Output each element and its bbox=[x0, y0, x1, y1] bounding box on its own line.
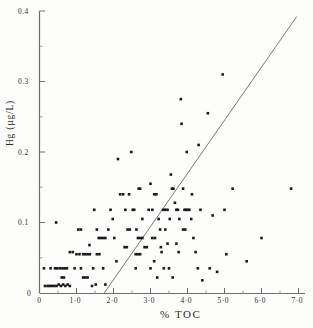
data-point bbox=[207, 112, 210, 115]
x-tick-label: 7·0 bbox=[292, 296, 303, 305]
data-point bbox=[177, 251, 180, 254]
axes bbox=[40, 11, 306, 294]
data-point bbox=[49, 285, 52, 288]
data-point bbox=[137, 237, 140, 240]
data-point bbox=[88, 244, 91, 247]
data-point bbox=[53, 285, 56, 288]
data-point bbox=[100, 237, 103, 240]
data-point bbox=[164, 209, 167, 212]
data-point bbox=[149, 182, 152, 185]
data-point bbox=[84, 276, 87, 279]
data-point bbox=[139, 237, 142, 240]
data-point bbox=[137, 253, 140, 256]
data-point bbox=[63, 267, 66, 270]
data-point bbox=[54, 267, 57, 270]
chart-figure: 01·02·03·04·05·06·07·0 00.10.20.30.4 % T… bbox=[0, 0, 313, 328]
data-point bbox=[119, 193, 122, 196]
data-point bbox=[154, 237, 157, 240]
x-tick-label: 0 bbox=[37, 296, 41, 305]
data-point bbox=[80, 228, 83, 231]
data-point bbox=[143, 246, 146, 249]
data-point bbox=[55, 285, 58, 288]
data-point bbox=[86, 253, 89, 256]
x-tick-label: 6·0 bbox=[255, 296, 266, 305]
y-tick-label: 0 bbox=[27, 289, 31, 298]
data-point bbox=[151, 209, 154, 212]
data-point bbox=[123, 246, 126, 249]
data-point bbox=[51, 285, 54, 288]
x-tick-label: 5·0 bbox=[218, 296, 229, 305]
data-point bbox=[113, 237, 116, 240]
data-point bbox=[157, 218, 160, 221]
data-point bbox=[111, 218, 114, 221]
data-point bbox=[146, 246, 149, 249]
data-point bbox=[109, 209, 112, 212]
data-point bbox=[134, 267, 137, 270]
data-point bbox=[141, 237, 144, 240]
data-point bbox=[164, 228, 167, 231]
data-point bbox=[97, 237, 100, 240]
data-point bbox=[153, 260, 156, 263]
data-point bbox=[66, 267, 69, 270]
data-point bbox=[153, 193, 156, 196]
data-point bbox=[171, 276, 174, 279]
data-point bbox=[44, 285, 47, 288]
data-point bbox=[46, 285, 49, 288]
data-point bbox=[57, 283, 60, 286]
data-point bbox=[69, 285, 72, 288]
data-point bbox=[128, 228, 131, 231]
data-point bbox=[155, 193, 158, 196]
data-point bbox=[151, 237, 154, 240]
data-point bbox=[223, 209, 226, 212]
data-point bbox=[208, 267, 211, 270]
data-point bbox=[188, 209, 191, 212]
y-tick-label: 0.2 bbox=[18, 148, 29, 157]
data-point bbox=[216, 271, 219, 274]
regression-line bbox=[104, 17, 296, 293]
data-point bbox=[126, 246, 129, 249]
data-point bbox=[149, 267, 152, 270]
x-tick-label: 2·0 bbox=[107, 296, 118, 305]
data-point bbox=[135, 228, 138, 231]
data-point bbox=[77, 228, 80, 231]
regression-line-segment bbox=[104, 17, 296, 293]
data-point bbox=[60, 285, 63, 288]
data-point bbox=[86, 276, 89, 279]
data-point bbox=[175, 242, 178, 245]
data-point bbox=[66, 283, 69, 286]
data-point bbox=[160, 251, 163, 254]
y-tick-label: 0.1 bbox=[18, 218, 29, 227]
data-point bbox=[180, 98, 183, 101]
data-point bbox=[192, 237, 195, 240]
data-point bbox=[260, 237, 263, 240]
data-point bbox=[130, 151, 133, 154]
data-point bbox=[197, 144, 200, 147]
data-point bbox=[104, 237, 107, 240]
data-point bbox=[128, 193, 131, 196]
data-point bbox=[104, 283, 107, 286]
data-point bbox=[75, 253, 78, 256]
data-point bbox=[221, 73, 224, 76]
data-point bbox=[166, 242, 169, 245]
data-point bbox=[180, 123, 183, 126]
data-point bbox=[174, 201, 177, 204]
x-axis-title: % TOC bbox=[160, 308, 202, 320]
data-point bbox=[98, 253, 101, 256]
data-point bbox=[59, 267, 62, 270]
data-point bbox=[147, 209, 150, 212]
data-point bbox=[245, 260, 248, 263]
data-point bbox=[201, 279, 204, 282]
data-point bbox=[156, 276, 159, 279]
data-point bbox=[96, 253, 99, 256]
data-point bbox=[133, 209, 136, 212]
data-point bbox=[62, 283, 65, 286]
data-point bbox=[191, 193, 194, 196]
data-point bbox=[43, 267, 46, 270]
data-point bbox=[69, 251, 72, 254]
data-points bbox=[43, 73, 293, 287]
x-tick-label: 4·0 bbox=[181, 296, 192, 305]
data-point bbox=[96, 228, 99, 231]
y-tick-label: 0.4 bbox=[18, 7, 29, 16]
data-point bbox=[82, 276, 85, 279]
data-point bbox=[73, 267, 76, 270]
